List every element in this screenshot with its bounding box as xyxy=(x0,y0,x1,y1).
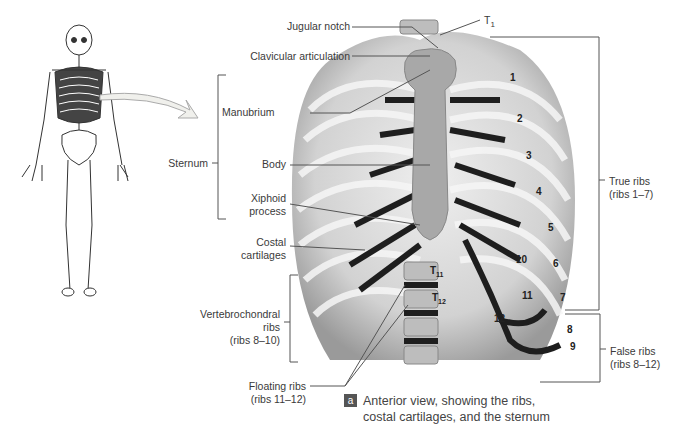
rib-number-9: 9 xyxy=(570,341,576,352)
label-t1: T1 xyxy=(484,14,495,31)
caption-line2: costal cartilages, and the sternum xyxy=(344,409,550,425)
rib-number-10: 10 xyxy=(516,254,527,265)
label-clavicular-articulation: Clavicular articulation xyxy=(220,50,350,63)
label-jugular-notch: Jugular notch xyxy=(250,20,350,33)
label-true-ribs: True ribs (ribs 1–7) xyxy=(609,175,653,201)
rib-number-4: 4 xyxy=(536,186,542,197)
label-floating-line2: (ribs 11–12) xyxy=(200,393,306,406)
caption-line1: Anterior view, showing the ribs, xyxy=(363,394,535,408)
rib-cage xyxy=(292,20,575,364)
label-false-line1: False ribs xyxy=(610,345,660,358)
rib-number-7: 7 xyxy=(560,292,566,303)
rib-number-8: 8 xyxy=(567,324,573,335)
label-sternum: Sternum xyxy=(150,157,208,170)
label-costal-cartilages: Costal cartilages xyxy=(220,236,286,262)
rib-number-3: 3 xyxy=(526,150,532,161)
label-xiphoid-line1: Xiphoid xyxy=(220,192,286,205)
illustration xyxy=(0,0,673,443)
label-true-line1: True ribs xyxy=(609,175,653,188)
vertebra-t11: T11 xyxy=(430,265,444,278)
label-vertebro-line3: (ribs 8–10) xyxy=(170,334,280,347)
label-vertebro-line2: ribs xyxy=(170,321,280,334)
label-vertebrochondral-ribs: Vertebrochondral ribs (ribs 8–10) xyxy=(170,308,280,347)
label-xiphoid-process: Xiphoid process xyxy=(220,192,286,218)
label-costal-line1: Costal xyxy=(220,236,286,249)
label-true-line2: (ribs 1–7) xyxy=(609,188,653,201)
figure-caption: aAnterior view, showing the ribs, costal… xyxy=(344,393,550,425)
label-floating-ribs: Floating ribs (ribs 11–12) xyxy=(200,380,306,406)
rib-number-11: 11 xyxy=(522,290,533,301)
label-false-line2: (ribs 8–12) xyxy=(610,358,660,371)
vertebra-t12-sub: 12 xyxy=(438,298,446,305)
rib-number-6: 6 xyxy=(553,258,559,269)
vertebra-t11-sub: 11 xyxy=(436,271,443,278)
caption-badge: a xyxy=(344,394,357,407)
skeleton-thumbnail xyxy=(22,25,128,296)
label-t1-sub: 1 xyxy=(490,20,494,29)
label-body: Body xyxy=(230,158,286,171)
vertebra-t12: T12 xyxy=(432,292,446,305)
label-manubrium: Manubrium xyxy=(222,106,275,119)
label-vertebro-line1: Vertebrochondral xyxy=(170,308,280,321)
pointer-arrow xyxy=(100,93,198,118)
label-floating-line1: Floating ribs xyxy=(200,380,306,393)
label-false-ribs: False ribs (ribs 8–12) xyxy=(610,345,660,371)
rib-number-2: 2 xyxy=(517,113,523,124)
rib-number-5: 5 xyxy=(548,222,554,233)
label-xiphoid-line2: process xyxy=(220,205,286,218)
label-costal-line2: cartilages xyxy=(220,249,286,262)
rib-number-12: 12 xyxy=(494,313,505,324)
rib-number-1: 1 xyxy=(510,72,516,83)
